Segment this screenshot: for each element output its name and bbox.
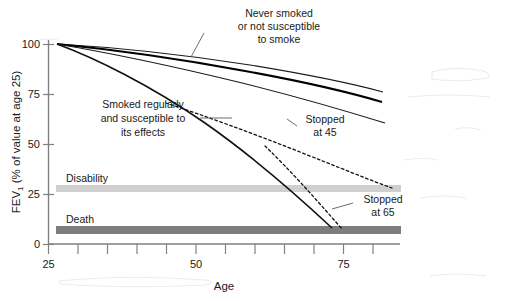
y-tick-label-75: 75 bbox=[28, 88, 40, 100]
x-ticks bbox=[49, 244, 374, 254]
stopped-at-65-line2: at 65 bbox=[371, 206, 395, 218]
x-tick-label-50: 50 bbox=[190, 258, 202, 270]
annotation-never-smoked: Never smoked or not susceptible to smoke bbox=[191, 7, 320, 57]
y-axis-title-suffix: (% of value at age 25) bbox=[10, 71, 22, 187]
annotation-stopped-at-45: Stopped at 45 bbox=[287, 113, 345, 138]
smoked-regularly-line1: Smoked regularly bbox=[102, 98, 184, 110]
x-axis-title: Age bbox=[214, 280, 234, 292]
y-tick-label-50: 50 bbox=[28, 138, 40, 150]
never-smoked-line2: or not susceptible bbox=[238, 20, 320, 32]
y-axis-title: FEV1 (% of value at age 25) bbox=[10, 71, 25, 214]
svg-text:FEV1 (% of value at age 25): FEV1 (% of value at age 25) bbox=[10, 71, 25, 214]
smoked-regularly-line3: its effects bbox=[121, 126, 165, 138]
chart-figure: 100 75 50 25 0 25 50 75 Age FEV1 (% of v… bbox=[0, 0, 513, 301]
stopped-at-65-line1: Stopped bbox=[363, 193, 402, 205]
death-band bbox=[56, 226, 401, 234]
curve-never-smoked-upper bbox=[57, 44, 383, 92]
curve-group bbox=[57, 44, 392, 229]
death-band-label: Death bbox=[66, 213, 94, 225]
annotation-stopped-at-65: Stopped at 65 bbox=[332, 193, 403, 218]
disability-band bbox=[56, 185, 401, 192]
stopped-at-45-line1: Stopped bbox=[305, 113, 344, 125]
y-tick-label-100: 100 bbox=[22, 38, 40, 50]
chart-svg: 100 75 50 25 0 25 50 75 Age FEV1 (% of v… bbox=[0, 0, 513, 301]
disability-band-label: Disability bbox=[66, 172, 109, 184]
y-tick-label-0: 0 bbox=[34, 238, 40, 250]
y-tick-labels: 100 75 50 25 0 bbox=[22, 38, 40, 250]
curve-stopped-at-45 bbox=[166, 103, 392, 188]
never-smoked-line1: Never smoked bbox=[245, 7, 313, 19]
never-smoked-line3: to smoke bbox=[258, 33, 301, 45]
x-tick-labels: 25 50 75 bbox=[42, 258, 349, 270]
stopped-at-45-leader-line bbox=[287, 119, 297, 126]
x-tick-label-25: 25 bbox=[42, 258, 54, 270]
smoked-regularly-line2: and susceptible to bbox=[101, 112, 186, 124]
x-tick-label-75: 75 bbox=[337, 258, 349, 270]
y-axis-title-prefix: FEV bbox=[10, 191, 22, 214]
threshold-bands bbox=[56, 185, 401, 234]
never-smoked-leader-line bbox=[191, 33, 204, 57]
stopped-at-45-line2: at 45 bbox=[313, 126, 337, 138]
annotation-smoked-regularly: Smoked regularly and susceptible to its … bbox=[101, 98, 232, 138]
y-tick-label-25: 25 bbox=[28, 188, 40, 200]
axes bbox=[43, 40, 400, 254]
stopped-at-65-leader-line bbox=[332, 203, 353, 209]
